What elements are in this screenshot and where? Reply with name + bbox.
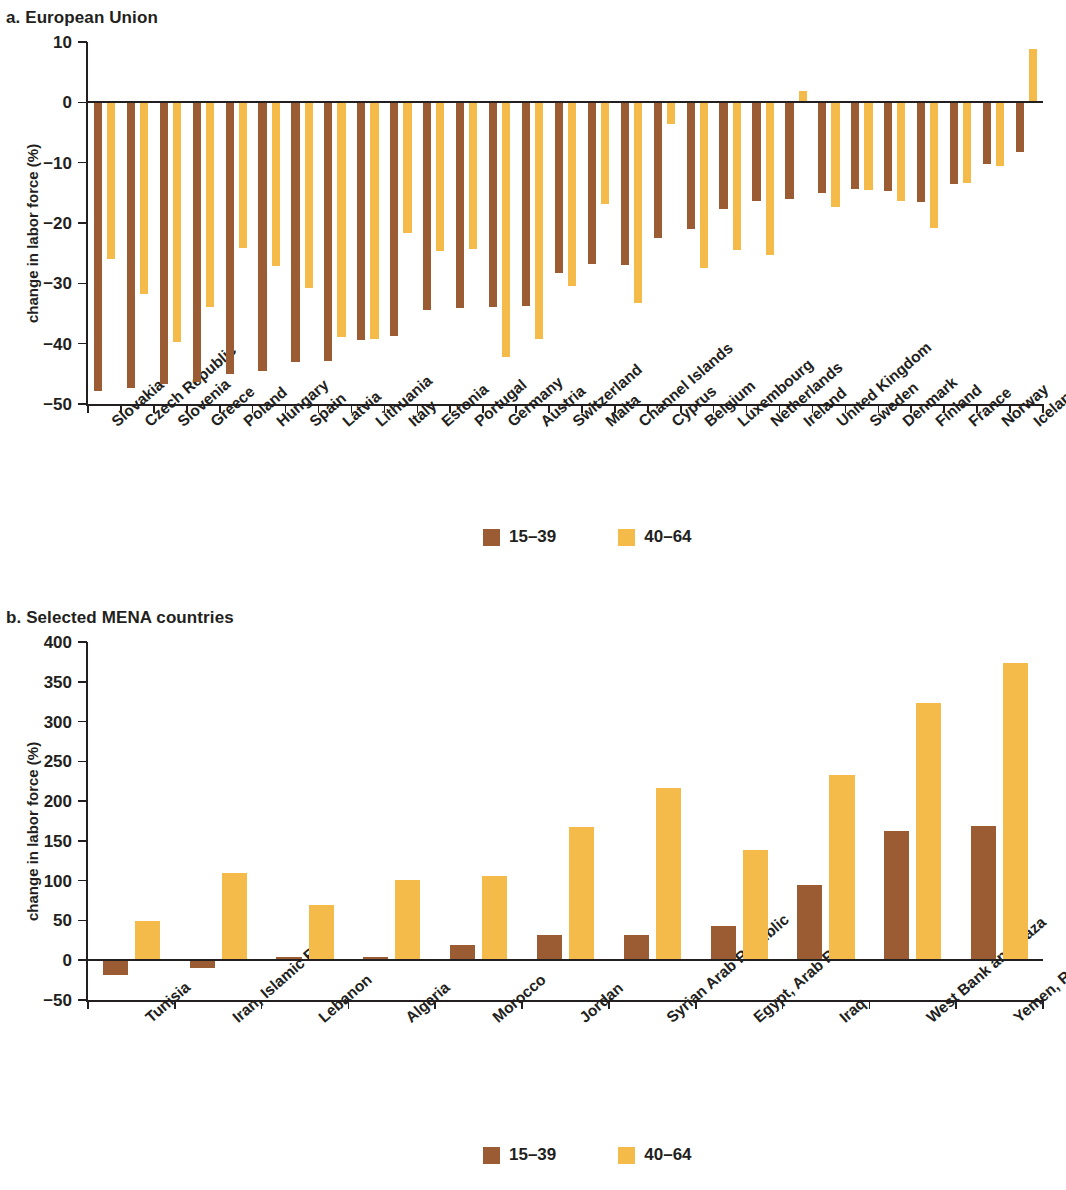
x-axis-category-label: Hungary [273,417,285,431]
bar-15-39 [950,102,958,184]
chart-b-plot-area: change in labor force (%)400350300250200… [0,600,1066,1190]
bar-15-39 [917,102,925,202]
legend-swatch-40-64 [618,1147,635,1164]
bar-40-64 [309,905,334,961]
bar-40-64 [996,102,1004,166]
x-tick-mark [153,404,155,413]
bar-40-64 [831,102,839,206]
x-axis-category-label: Germany [504,417,516,431]
x-axis-category-label: Jordan [576,1013,588,1027]
bar-40-64 [1003,663,1028,961]
y-tick-label: 0 [63,94,72,111]
bar-40-64 [897,102,905,200]
bar-15-39 [226,102,234,374]
legend-item-15-39: 15–39 [483,527,556,547]
bar-15-39 [127,102,135,387]
bar-40-64 [916,703,941,960]
x-tick-mark [521,1000,523,1009]
zero-baseline [86,101,1043,103]
x-axis-category-label: Spain [306,417,318,431]
x-axis-category-label: Belgium [701,417,713,431]
bar-40-64 [337,102,345,337]
bar-15-39 [797,885,822,960]
bar-40-64 [535,102,543,339]
bar-15-39 [752,102,760,201]
x-tick-mark [845,404,847,413]
x-axis-category-label: West Bank and Gaza [923,1013,935,1027]
bar-40-64 [568,102,576,286]
bar-40-64 [700,102,708,267]
x-tick-mark [120,404,122,413]
y-tick-mark [78,840,87,842]
bar-40-64 [173,102,181,342]
x-axis-category-label: Egypt, Arab Rep. [750,1013,762,1027]
bar-40-64 [436,102,444,251]
bar-40-64 [222,873,247,961]
bar-15-39 [522,102,530,305]
legend-label-15-39: 15–39 [509,527,556,547]
legend-label-15-39: 15–39 [509,1145,556,1165]
x-axis-category-label: Algeria [402,1013,414,1027]
bar-15-39 [884,831,909,961]
y-tick-label: 50 [53,912,72,929]
bar-40-64 [667,102,675,124]
y-tick-label: 0 [63,952,72,969]
legend-label-40-64: 40–64 [644,1145,691,1165]
x-axis-category-label: United Kingdom [833,417,845,431]
x-axis-category-label: Switzerland [569,417,581,431]
bar-15-39 [719,102,727,208]
x-axis-category-label: Slovakia [108,417,120,431]
y-tick-label: 200 [44,793,72,810]
bar-15-39 [456,102,464,308]
bar-15-39 [324,102,332,361]
x-tick-mark [779,404,781,413]
bar-15-39 [687,102,695,229]
x-tick-mark [384,404,386,413]
bar-40-64 [634,102,642,303]
x-axis-category-label: Italy [405,417,417,431]
x-axis-category-label: Morocco [489,1013,501,1027]
bar-40-64 [743,850,768,960]
bar-15-39 [983,102,991,164]
x-axis-category-label: Estonia [438,417,450,431]
x-tick-mark [219,404,221,413]
bar-15-39 [971,826,996,960]
x-tick-mark [1042,1000,1044,1009]
bar-15-39 [160,102,168,384]
legend-item-40-64: 40–64 [618,1145,691,1165]
y-tick-label: 250 [44,753,72,770]
x-tick-mark [186,404,188,413]
x-axis-category-label: Yemen, Rep. [1010,1013,1022,1027]
y-tick-mark [78,800,87,802]
bar-15-39 [818,102,826,193]
bar-40-64 [370,102,378,339]
x-tick-mark [318,404,320,413]
x-axis-category-label: Luxembourg [734,417,746,431]
x-tick-mark [434,1000,436,1009]
y-axis-label: change in labor force (%) [24,144,41,323]
bar-15-39 [624,935,649,960]
bar-15-39 [193,102,201,382]
bar-40-64 [140,102,148,294]
x-tick-mark [955,1000,957,1009]
x-tick-mark [782,1000,784,1009]
y-tick-mark [78,681,87,683]
y-tick-label: 300 [44,713,72,730]
bar-15-39 [621,102,629,264]
legend-swatch-40-64 [618,529,635,546]
x-tick-mark [746,404,748,413]
y-tick-mark [78,761,87,763]
y-axis-line [86,642,88,1000]
x-tick-mark [910,404,912,413]
bar-40-64 [502,102,510,357]
bar-15-39 [357,102,365,340]
bar-40-64 [733,102,741,249]
bar-40-64 [469,102,477,249]
x-tick-mark [174,1000,176,1009]
x-tick-mark [482,404,484,413]
x-tick-mark [417,404,419,413]
bar-40-64 [963,102,971,182]
bar-40-64 [766,102,774,255]
y-tick-mark [78,343,87,345]
bar-15-39 [588,102,596,264]
